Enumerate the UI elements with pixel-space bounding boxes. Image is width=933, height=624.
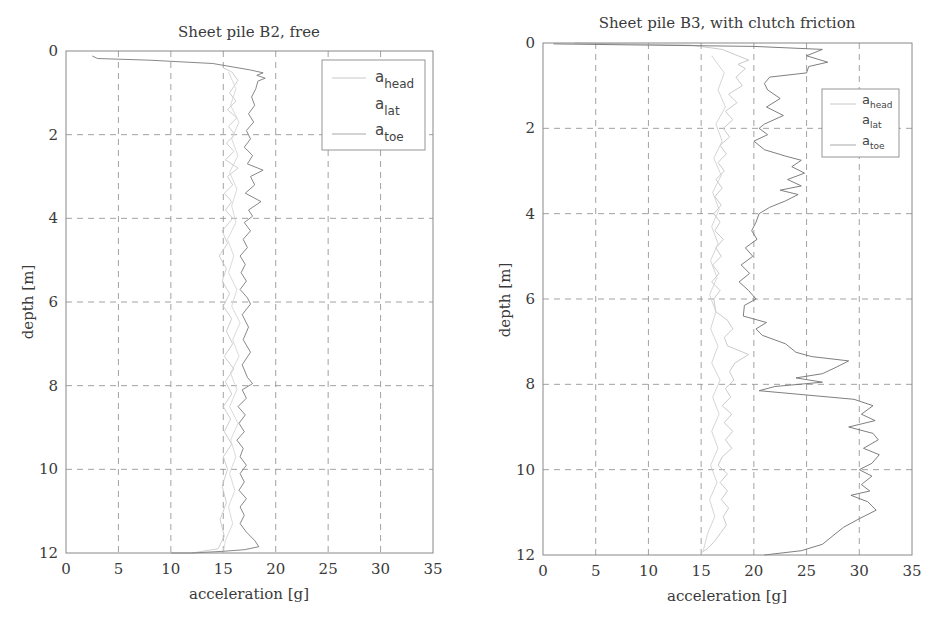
x-tick-label: 35: [902, 562, 921, 580]
x-tick-label: 15: [214, 560, 233, 578]
x-axis-label: acceleration [g]: [189, 585, 309, 603]
y-axis-ticks: 024681012: [39, 42, 58, 562]
legend: ahead alat atoe: [322, 60, 425, 150]
x-tick-label: 20: [744, 562, 763, 580]
x-axis-label: acceleration [g]: [667, 587, 787, 605]
y-axis-label: depth [m]: [19, 265, 37, 339]
x-tick-label: 30: [850, 562, 869, 580]
y-axis-ticks: 024681012: [516, 34, 535, 564]
y-tick-label: 4: [525, 205, 535, 223]
y-tick-label: 12: [39, 544, 58, 562]
x-tick-label: 10: [161, 560, 180, 578]
y-tick-label: 0: [525, 34, 535, 52]
x-tick-label: 15: [692, 562, 711, 580]
x-tick-label: 5: [114, 560, 124, 578]
x-tick-label: 20: [266, 560, 285, 578]
chart-title: Sheet pile B3, with clutch friction: [599, 14, 856, 32]
y-tick-label: 12: [516, 546, 535, 564]
x-tick-label: 5: [591, 562, 601, 580]
y-tick-label: 2: [48, 126, 58, 144]
y-tick-label: 10: [39, 460, 58, 478]
chart-panel-right: Sheet pile B3, with clutch friction 0510…: [496, 14, 922, 605]
y-tick-label: 8: [48, 377, 58, 395]
series-line-a-head: [192, 68, 238, 553]
x-tick-label: 0: [538, 562, 548, 580]
x-axis-ticks: 05101520253035: [61, 560, 442, 578]
series-line-a-lat: [223, 72, 240, 553]
y-tick-label: 6: [525, 290, 535, 308]
series-line-a-head: [575, 43, 749, 553]
y-tick-label: 10: [516, 461, 535, 479]
x-tick-label: 35: [423, 560, 442, 578]
x-tick-label: 30: [371, 560, 390, 578]
x-tick-label: 25: [319, 560, 338, 578]
y-tick-label: 0: [48, 42, 58, 60]
legend: ahead alat atoe: [822, 89, 899, 157]
y-tick-label: 6: [48, 293, 58, 311]
chart-panel-left: Sheet pile B2, free 05101520253035 02468…: [19, 23, 443, 603]
x-tick-label: 25: [797, 562, 816, 580]
y-tick-label: 2: [525, 119, 535, 137]
y-tick-label: 8: [525, 375, 535, 393]
chart-title: Sheet pile B2, free: [178, 23, 320, 41]
y-tick-label: 4: [48, 209, 58, 227]
y-axis-label: depth [m]: [496, 263, 514, 337]
figure: Sheet pile B2, free 05101520253035 02468…: [0, 0, 933, 624]
x-axis-ticks: 05101520253035: [538, 562, 921, 580]
x-tick-label: 10: [639, 562, 658, 580]
x-tick-label: 0: [61, 560, 71, 578]
legend-box: [322, 60, 425, 150]
